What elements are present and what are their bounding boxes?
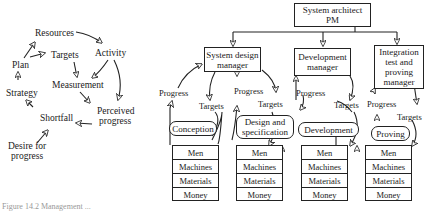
phase-development: Development — [298, 122, 359, 137]
phase-label: Conception — [172, 124, 214, 134]
pm-label: PM — [326, 15, 339, 25]
phase-design-specification: Design and specification — [236, 115, 294, 139]
manager-label: manager — [217, 60, 248, 70]
node-activity: Activity — [95, 48, 126, 58]
resource-materials: Materials — [366, 174, 411, 188]
phase-proving: Proving — [371, 126, 410, 141]
node-strategy: Strategy — [6, 88, 38, 98]
phase-label: Design and — [245, 117, 286, 127]
resource-men: Men — [173, 146, 218, 160]
targets-label: Targets — [258, 99, 283, 109]
node-targets: Targets — [51, 50, 79, 60]
node-desire-for-progress-line1: Desire for — [8, 141, 46, 151]
progress-label: Progress — [234, 86, 263, 96]
node-plan: Plan — [12, 60, 29, 70]
node-perceived-progress-line1: Perceived — [97, 106, 134, 116]
resource-materials: Materials — [237, 174, 282, 188]
resource-stack-conception: Men Machines Materials Money — [172, 145, 219, 201]
phase-label: Development — [304, 125, 353, 135]
resource-men: Men — [302, 146, 347, 160]
manager-label: test and — [385, 57, 413, 67]
progress-label: Progress — [296, 88, 325, 98]
resource-stack-proving: Men Machines Materials Money — [365, 145, 412, 201]
progress-label: Progress — [159, 88, 188, 98]
targets-label: Targets — [397, 112, 422, 122]
resource-materials: Materials — [173, 174, 218, 188]
node-perceived-progress-line2: progress — [99, 116, 131, 126]
development-manager-box: Development manager — [294, 48, 351, 76]
resource-men: Men — [237, 146, 282, 160]
phase-label: specification — [242, 127, 288, 137]
targets-label: Targets — [199, 101, 224, 111]
resource-machines: Machines — [237, 160, 282, 174]
manager-label: manager — [307, 62, 338, 72]
targets-label: Targets — [334, 100, 359, 110]
figure-caption: Figure 14.2 Management ... — [2, 202, 91, 211]
node-shortfall: Shortfall — [40, 113, 73, 123]
manager-label: Development — [298, 52, 347, 62]
resource-materials: Materials — [302, 174, 347, 188]
resource-money: Money — [366, 188, 411, 202]
resource-stack-development: Men Machines Materials Money — [301, 145, 348, 201]
manager-label: Integration — [379, 47, 419, 57]
phase-conception: Conception — [169, 121, 217, 136]
resource-money: Money — [173, 188, 218, 202]
system-architect-label: System architect — [303, 5, 363, 15]
resource-money: Money — [237, 188, 282, 202]
manager-label: proving — [385, 67, 413, 77]
resource-machines: Machines — [302, 160, 347, 174]
node-resources: Resources — [35, 28, 74, 38]
resource-stack-design: Men Machines Materials Money — [236, 145, 283, 201]
node-measurement: Measurement — [52, 80, 104, 90]
resource-machines: Machines — [366, 160, 411, 174]
resource-men: Men — [366, 146, 411, 160]
manager-label: System design — [206, 50, 258, 60]
integration-manager-box: Integration test and proving manager — [374, 45, 424, 89]
progress-label: Progress — [367, 99, 396, 109]
manager-label: manager — [384, 77, 415, 87]
phase-label: Proving — [376, 129, 405, 139]
resource-machines: Machines — [173, 160, 218, 174]
system-design-manager-box: System design manager — [204, 47, 261, 72]
resource-money: Money — [302, 188, 347, 202]
node-desire-for-progress-line2: progress — [11, 151, 43, 161]
system-architect-box: System architect PM — [294, 3, 371, 27]
